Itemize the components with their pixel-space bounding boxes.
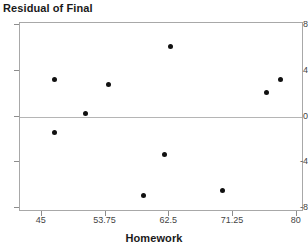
- x-tick-label: 45: [36, 216, 46, 225]
- data-point: [106, 82, 111, 87]
- zero-reference-line: [20, 117, 302, 118]
- data-point: [52, 77, 57, 82]
- residual-scatter-chart: Residual of Final 840-4-8 4553.7562.571.…: [0, 0, 308, 249]
- x-tick-label: 71.25: [221, 216, 244, 225]
- x-tick-label: 80: [291, 216, 301, 225]
- x-tick-mark: [41, 211, 42, 216]
- plot-area: [19, 22, 303, 211]
- y-tick-mark: [14, 161, 19, 162]
- x-tick-label: 53.75: [93, 216, 116, 225]
- y-tick-label: 8: [294, 19, 308, 28]
- x-tick-mark: [168, 211, 169, 216]
- y-tick-mark: [14, 207, 19, 208]
- x-tick-mark: [105, 211, 106, 216]
- x-tick-mark: [232, 211, 233, 216]
- y-tick-mark: [14, 24, 19, 25]
- data-point: [52, 130, 57, 135]
- y-tick-label: 0: [294, 111, 308, 120]
- data-point: [168, 44, 173, 49]
- x-tick-mark: [296, 211, 297, 216]
- y-tick-mark: [14, 116, 19, 117]
- data-point: [162, 152, 167, 157]
- data-point: [141, 193, 146, 198]
- y-axis-title: Residual of Final: [3, 2, 93, 14]
- data-point: [220, 188, 225, 193]
- data-point: [278, 77, 283, 82]
- y-tick-label: -4: [294, 157, 308, 166]
- y-tick-mark: [14, 70, 19, 71]
- x-tick-label: 62.5: [160, 216, 178, 225]
- data-point: [264, 90, 269, 95]
- y-tick-label: 4: [294, 65, 308, 74]
- x-axis-title: Homework: [0, 232, 308, 244]
- data-point: [83, 111, 88, 116]
